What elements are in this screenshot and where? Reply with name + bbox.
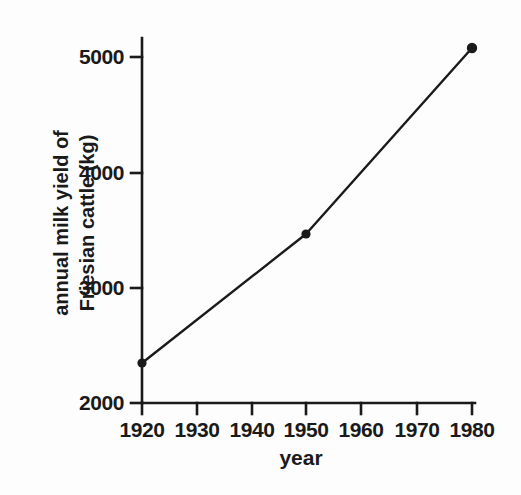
x-axis-title: year (279, 446, 322, 470)
data-point-1980 (467, 43, 477, 53)
data-point-1920 (137, 358, 146, 367)
x-tick-label-1940: 1940 (229, 418, 274, 442)
x-tick-label-1950: 1950 (283, 418, 328, 442)
x-tick-label-1920: 1920 (119, 418, 164, 442)
y-axis-title: annual milk yield of Friesian cattle (kg… (22, 108, 78, 338)
x-axis-tick-marks (142, 403, 472, 414)
y-tick-label-2000: 2000 (48, 391, 124, 415)
y-tick-label-5000: 5000 (48, 45, 124, 69)
x-tick-label-1930: 1930 (174, 418, 219, 442)
x-tick-label-1970: 1970 (394, 418, 439, 442)
x-tick-label-1960: 1960 (338, 418, 383, 442)
x-tick-label-1980: 1980 (449, 418, 494, 442)
y-axis-title-line-2: Friesian cattle (kg) (74, 108, 304, 338)
line-chart-figure: 5000 4000 3000 2000 1920 1930 1940 1950 … (0, 0, 521, 495)
